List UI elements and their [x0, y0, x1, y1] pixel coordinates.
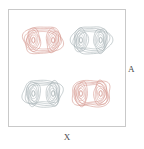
contour-line — [30, 35, 36, 46]
contour-cell-bottom-right — [72, 80, 110, 107]
contour-line — [98, 35, 104, 46]
plot-area-frame — [8, 9, 126, 127]
contour-peak-marker — [79, 38, 82, 43]
contour-peak-marker — [52, 38, 55, 43]
contour-peak-marker — [32, 38, 35, 43]
x-axis-label: X — [0, 133, 134, 142]
contour-peak-marker — [52, 91, 55, 96]
contour-canvas — [9, 10, 125, 126]
contour-cell-top-left — [22, 27, 63, 54]
contour-peak-marker — [32, 91, 35, 96]
contour-cell-top-right — [70, 27, 113, 54]
contour-line — [97, 88, 103, 99]
contour-peak-marker — [79, 91, 82, 96]
contour-line — [50, 34, 56, 45]
contour-plot-figure: X A — [0, 0, 144, 149]
contour-line — [78, 88, 84, 99]
y-axis-label: A — [128, 65, 144, 74]
contour-line — [29, 32, 56, 49]
contour-peak-marker — [99, 38, 102, 43]
contour-cell-bottom-left — [22, 80, 63, 107]
contour-peak-marker — [99, 91, 102, 96]
